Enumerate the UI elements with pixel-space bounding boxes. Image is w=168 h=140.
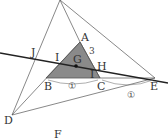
label-c: C [97,80,105,93]
label-f: F [54,128,62,140]
ratio-ce: ① [127,90,135,100]
label-b: B [44,80,52,93]
label-a: A [80,31,90,44]
label-e: E [150,80,158,93]
line-fa [60,0,80,42]
label-h: H [97,60,107,73]
label-i: I [55,51,59,64]
label-j: J [30,46,35,59]
geometry-diagram: A B C D E F G H I I J 3 ① ① [0,0,168,140]
ratio-ah: 3 [89,46,95,56]
ratio-bc: ① [68,81,76,91]
line-fd [12,0,60,115]
label-d: D [4,114,13,127]
label-g: G [73,53,82,66]
label-i-lower: I [90,68,94,81]
line-da [12,42,80,115]
